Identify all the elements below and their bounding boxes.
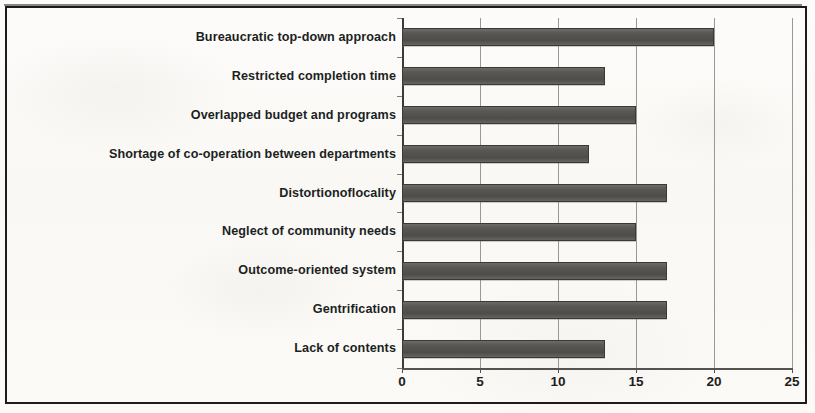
x-tick-label: 15	[616, 375, 656, 389]
x-tick-label: 5	[460, 375, 500, 389]
gridline-25	[792, 18, 793, 368]
y-tick-mark	[397, 290, 402, 291]
y-tick-mark	[397, 57, 402, 58]
x-axis-line	[402, 368, 793, 370]
y-tick-mark	[397, 251, 402, 252]
y-tick-mark	[397, 368, 402, 369]
category-label: Distortionoflocality	[0, 187, 396, 200]
category-label: Shortage of co-operation between departm…	[0, 148, 396, 161]
bar-row	[402, 18, 792, 57]
y-tick-mark	[397, 174, 402, 175]
x-tick-mark	[558, 368, 559, 373]
x-tick-mark	[402, 368, 403, 373]
bar-row	[402, 329, 792, 368]
bar	[402, 106, 636, 124]
bar-row	[402, 135, 792, 174]
y-tick-mark	[397, 212, 402, 213]
category-label: Gentrification	[0, 303, 396, 316]
bar	[402, 301, 667, 319]
x-tick-label: 0	[382, 375, 422, 389]
category-label: Outcome-oriented system	[0, 264, 396, 277]
category-label: Overlapped budget and programs	[0, 109, 396, 122]
bar-row	[402, 57, 792, 96]
bar	[402, 184, 667, 202]
category-label: Restricted completion time	[0, 70, 396, 83]
plot-area	[402, 18, 792, 368]
bar	[402, 67, 605, 85]
category-label: Lack of contents	[0, 342, 396, 355]
bar-row	[402, 290, 792, 329]
bar-row	[402, 251, 792, 290]
y-tick-mark	[397, 96, 402, 97]
x-tick-label: 25	[772, 375, 812, 389]
x-tick-mark	[792, 368, 793, 373]
y-tick-mark	[397, 329, 402, 330]
x-tick-mark	[636, 368, 637, 373]
bar-chart-figure: Bureaucratic top-down approachRestricted…	[0, 0, 815, 413]
bar	[402, 262, 667, 280]
y-tick-mark	[397, 18, 402, 19]
bar-row	[402, 212, 792, 251]
bar-row	[402, 174, 792, 213]
y-tick-mark	[397, 135, 402, 136]
x-tick-mark	[714, 368, 715, 373]
x-tick-label: 10	[538, 375, 578, 389]
bar	[402, 340, 605, 358]
bar-row	[402, 96, 792, 135]
x-tick-label: 20	[694, 375, 734, 389]
bar	[402, 145, 589, 163]
bar	[402, 28, 714, 46]
category-label: Bureaucratic top-down approach	[0, 31, 396, 44]
category-label: Neglect of community needs	[0, 225, 396, 238]
x-tick-mark	[480, 368, 481, 373]
bar	[402, 223, 636, 241]
horizontal-bar-chart: Bureaucratic top-down approachRestricted…	[0, 0, 815, 413]
